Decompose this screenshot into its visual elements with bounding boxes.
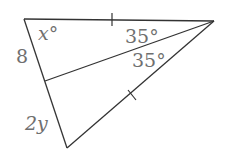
angle-35-lower-label: 35° xyxy=(132,49,166,71)
side-8-label: 8 xyxy=(16,45,28,67)
triangle-diagram: x° 35° 35° 8 2y xyxy=(0,0,228,164)
angle-35-upper-label: 35° xyxy=(125,25,159,47)
angle-x-label: x° xyxy=(38,22,58,44)
side-2y-label: 2y xyxy=(24,112,48,134)
side-top xyxy=(24,19,214,21)
